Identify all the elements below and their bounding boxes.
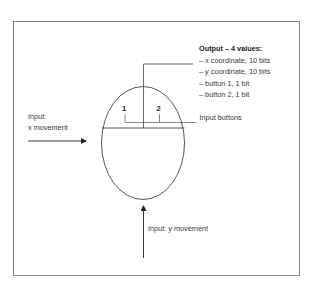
output-item-button2: – button 2, 1 bit bbox=[199, 90, 249, 101]
button-1-label: 1 bbox=[122, 104, 126, 113]
x-input-label-line2: x movement bbox=[28, 123, 68, 134]
output-connector bbox=[144, 64, 194, 128]
output-title: Output – 4 values: bbox=[199, 44, 262, 55]
y-input-label: Input: y movement bbox=[148, 224, 208, 235]
x-input-label-line1: Input: bbox=[28, 112, 46, 123]
button-2-label: 2 bbox=[157, 104, 161, 113]
output-item-x: – x coordinate, 10 bits bbox=[199, 56, 270, 67]
input-buttons-label: Input buttons bbox=[200, 113, 242, 124]
mouse-body bbox=[102, 87, 185, 200]
output-item-y: – y coordinate, 10 bits bbox=[199, 67, 270, 78]
output-item-button1: – button 1, 1 bit bbox=[199, 79, 249, 90]
mouse-diagram bbox=[0, 0, 315, 289]
